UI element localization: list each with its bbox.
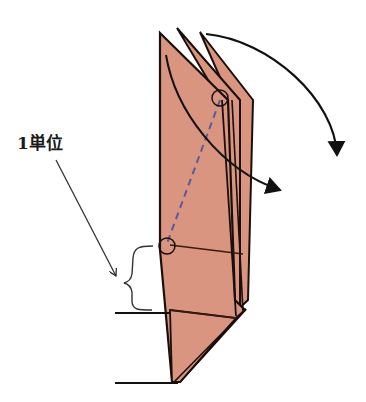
label-pointer-arrow — [56, 160, 116, 276]
unit-brace — [124, 246, 153, 310]
unit-label: 1単位 — [17, 129, 63, 154]
diagram-canvas — [0, 0, 366, 402]
origami-diagram: 1単位 — [0, 0, 366, 402]
